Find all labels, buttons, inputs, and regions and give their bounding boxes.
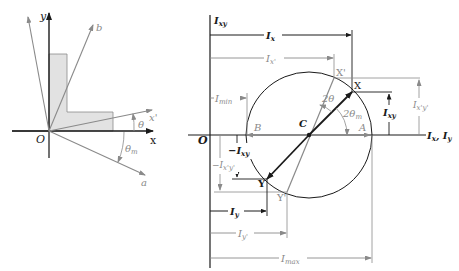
moment-of-inertia-diagram: y b x' θ x O θm a Ix (0, 0, 459, 271)
origin-label: O (36, 133, 45, 146)
mohr-origin-label: O (198, 134, 208, 147)
x-label: x (150, 134, 157, 147)
center-c-label: C (299, 118, 307, 129)
a-label: a (141, 177, 147, 188)
theta-arc (133, 114, 134, 131)
cross-section-figure: y b x' θ x O θm a (12, 10, 157, 188)
point-x-label: X (354, 80, 362, 91)
b-label: b (96, 22, 102, 33)
y-label: y (39, 10, 47, 23)
point-y-label: Y (257, 178, 266, 189)
theta-m-arc (118, 132, 124, 162)
ixy-axis-label: Ixy (213, 15, 228, 28)
point-b-label: B (253, 122, 261, 133)
point-y-prime-label: Y' (276, 192, 286, 203)
two-theta-label: 2θ (321, 93, 334, 104)
x-prime-label: x' (149, 112, 157, 123)
mohrs-circle-figure: Ix Ix' Imin Ix'y' Ixy −Ixy −Ix'y' (188, 15, 453, 268)
point-x-prime-label: X' (336, 67, 346, 78)
ix-iy-axis-label: Ix, Iy (426, 130, 453, 143)
y-prime-axis (28, 17, 49, 131)
theta-m-label: θm (125, 143, 138, 156)
point-a-label: A (358, 122, 366, 133)
theta-label: θ (138, 119, 144, 130)
two-theta-m-label: 2θm (342, 108, 362, 121)
